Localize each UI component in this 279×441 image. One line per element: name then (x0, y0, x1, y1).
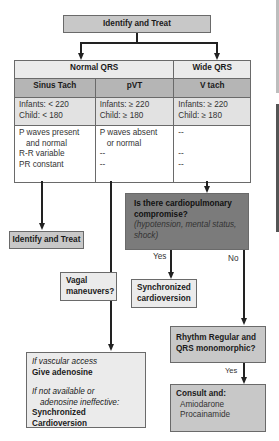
feature-text: -- (178, 149, 246, 160)
adenosine-condition-2a: If not available or (32, 387, 141, 398)
sync-line1: Synchronized (137, 283, 196, 294)
no-label: No (228, 254, 238, 265)
connector (243, 363, 245, 378)
cardiopulmonary-compromise-box: Is there cardiopulmonary compromise? (hy… (125, 193, 249, 250)
feature-text: P waves present (19, 128, 91, 139)
rate-child: Child: ≥ 180 (100, 111, 170, 122)
yes-bottom-label: Yes (225, 366, 237, 377)
arrow-down-icon (168, 272, 174, 279)
feature-text: -- (100, 149, 170, 160)
consult-box: Consult and: Amiodarone Procainamide (170, 384, 266, 432)
identify-treat-sinus-label: Identify and Treat (13, 235, 81, 244)
connector (170, 250, 172, 273)
v-tach-rates: Infants: ≥ 220 Child: ≥ 180 (174, 98, 251, 126)
feature-text: PR constant (19, 160, 91, 171)
rhythm-line2: QRS monomorphic? (176, 344, 265, 355)
arrow-down-icon (241, 318, 247, 325)
feature-text: -- (178, 160, 246, 171)
compromise-detail: shock) (134, 231, 244, 242)
feature-text: -- (178, 128, 246, 139)
consult-title: Consult and: (176, 389, 265, 400)
adenosine-condition-1: If vascular access (32, 357, 141, 368)
arrow-down-icon (78, 53, 84, 60)
identify-treat-sinus-box: Identify and Treat (9, 231, 84, 249)
adenosine-action-2: Synchronized Cardioversion (32, 408, 141, 429)
feature-text: or normal (100, 139, 170, 150)
rate-infants: Infants: < 220 (19, 100, 91, 111)
spacer (32, 378, 141, 387)
page-edge-tab-light (276, 0, 279, 93)
sinus-tach-rates: Infants: < 220 Child: < 180 (15, 98, 96, 126)
arrow-down-icon (39, 223, 45, 230)
table-rhythm-header-row: Sinus Tach pVT V tach (15, 79, 251, 98)
adenosine-box: If vascular access Give adenosine If not… (26, 352, 146, 428)
table-feature-row: P waves present and normal R-R variable … (15, 126, 251, 183)
rate-child: Child: < 180 (19, 111, 91, 122)
sinus-tach-features: P waves present and normal R-R variable … (15, 126, 96, 183)
feature-text: -- (100, 160, 170, 171)
feature-text (178, 139, 246, 150)
connector (80, 42, 217, 44)
pvt-rates: Infants: ≥ 220 Child: ≥ 180 (95, 98, 174, 126)
drug-amiodarone: Amiodarone (176, 400, 265, 411)
v-tach-features: -- -- -- (174, 126, 251, 183)
feature-text: and normal (19, 139, 91, 150)
arrow-down-icon (204, 186, 210, 193)
arrow-down-icon (108, 344, 114, 351)
identify-treat-top-label: Identify and Treat (103, 19, 171, 28)
vagal-line2: maneuvers? (66, 287, 116, 298)
table-rate-row: Infants: < 220 Child: < 180 Infants: ≥ 2… (15, 98, 251, 126)
connector (110, 181, 112, 345)
sinus-tach-header: Sinus Tach (15, 79, 96, 98)
rhythm-line1: Rhythm Regular and (176, 333, 265, 344)
feature-text: P waves absent (100, 128, 170, 139)
feature-text: R-R variable (19, 149, 91, 160)
identify-treat-top-box: Identify and Treat (63, 15, 211, 33)
pvt-features: P waves absent or normal -- -- (95, 126, 174, 183)
connector (243, 250, 245, 319)
wide-qrs-header: Wide QRS (174, 61, 251, 79)
v-tach-header: V tach (174, 79, 251, 98)
vagal-maneuvers-box: Vagal maneuvers? (60, 272, 117, 301)
vagal-line1: Vagal (66, 276, 116, 287)
compromise-detail: (hypotension, mental status, (134, 220, 244, 231)
rate-child: Child: ≥ 180 (178, 111, 246, 122)
page-edge-tab-dark (276, 104, 279, 232)
yes-label: Yes (153, 252, 166, 263)
qrs-classification-table: Normal QRS Wide QRS Sinus Tach pVT V tac… (14, 60, 251, 183)
rhythm-regular-box: Rhythm Regular and QRS monomorphic? (170, 326, 266, 363)
synchronized-cardioversion-box: Synchronized cardioversion (131, 279, 197, 308)
arrow-down-icon (214, 53, 220, 60)
connector (41, 181, 43, 224)
normal-qrs-header: Normal QRS (15, 61, 174, 79)
table-group-header-row: Normal QRS Wide QRS (15, 61, 251, 79)
adenosine-action-1: Give adenosine (32, 368, 141, 379)
arrow-down-icon (241, 377, 247, 384)
rate-infants: Infants: ≥ 220 (100, 100, 170, 111)
adenosine-condition-2b: adenosine ineffective: (32, 398, 141, 409)
rate-infants: Infants: ≥ 220 (178, 100, 246, 111)
pvt-header: pVT (95, 79, 174, 98)
sync-line2: cardioversion (137, 294, 196, 305)
drug-procainamide: Procainamide (176, 410, 265, 421)
compromise-question: compromise? (134, 210, 244, 221)
compromise-question: Is there cardiopulmonary (134, 199, 244, 210)
